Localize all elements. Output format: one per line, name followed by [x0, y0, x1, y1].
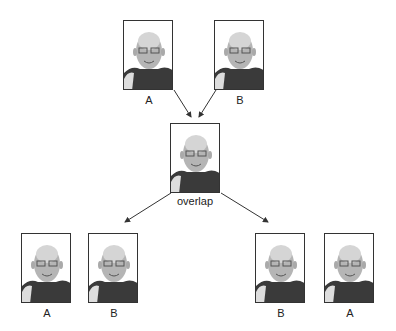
portrait-image: [89, 234, 138, 303]
label-bottom-right-a: A: [320, 307, 380, 319]
photo-bottom-right-b: [255, 233, 305, 303]
label-overlap: overlap: [165, 195, 225, 207]
portrait-image: [215, 21, 264, 90]
photo-bottom-left-b: [88, 233, 138, 303]
label-bottom-right-b: B: [251, 307, 311, 319]
label-bottom-left-b: B: [84, 307, 144, 319]
portrait-image: [22, 234, 71, 303]
portrait-image: [325, 234, 374, 303]
photo-bottom-right-a: [324, 233, 374, 303]
photo-bottom-left-a: [21, 233, 71, 303]
photo-overlap: [170, 123, 220, 193]
label-bottom-left-a: A: [17, 307, 77, 319]
photo-top-a: [123, 20, 173, 90]
portrait-image: [171, 124, 220, 193]
portrait-image: [124, 21, 173, 90]
photo-top-b: [214, 20, 264, 90]
label-top-b: B: [210, 94, 270, 106]
label-top-a: A: [119, 94, 179, 106]
portrait-image: [256, 234, 305, 303]
